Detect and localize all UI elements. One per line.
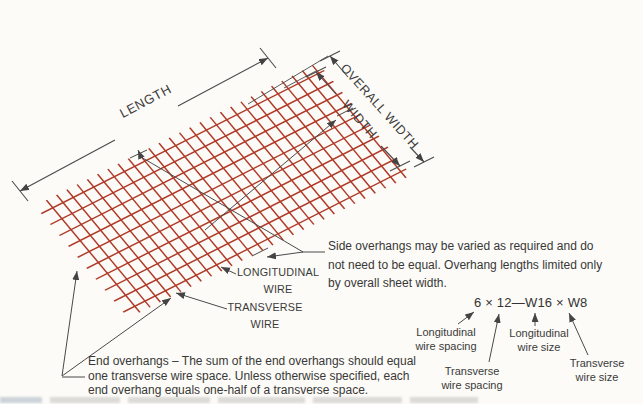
- length-dim-line-right: [178, 58, 268, 106]
- extension-line-overall-width: [248, 56, 328, 104]
- end-overhang-note-line1: End overhangs – The sum of the end overh…: [88, 354, 416, 369]
- transverse-size-label: Transverse wire size: [552, 357, 642, 384]
- transverse-wire-label-line1: TRANSVERSE: [220, 299, 310, 316]
- side-overhang-note-line1: Side overhangs may be varied as required…: [328, 237, 602, 256]
- longitudinal-spacing-label: Longitudinal wire spacing: [401, 326, 491, 353]
- end-overhang-leader-left: [62, 271, 77, 376]
- length-end-tick-left: [12, 181, 28, 201]
- longitudinal-wire-label-line2: WIRE: [233, 281, 323, 298]
- longitudinal-size-label-line2: wire size: [494, 341, 584, 355]
- designation-code: 6 × 12—W16 × W8: [474, 295, 588, 310]
- length-label: LENGTH: [117, 81, 174, 121]
- longitudinal-wire: [41, 70, 324, 213]
- side-overhang-note-line2: not need to be equal. Overhang lengths l…: [328, 256, 602, 275]
- longitudinal-wire-label: LONGITUDINAL WIRE: [233, 264, 323, 298]
- transverse-size-label-line1: Transverse: [552, 357, 642, 371]
- longitudinal-wire: [69, 103, 352, 246]
- longitudinal-wire-label-line1: LONGITUDINAL: [233, 264, 323, 281]
- longitudinal-size-label: Longitudinal wire size: [494, 327, 584, 354]
- cropped-caption-remnant: [0, 397, 478, 403]
- longitudinal-spacing-label-line1: Longitudinal: [401, 326, 491, 340]
- side-overhang-note: Side overhangs may be varied as required…: [328, 237, 602, 293]
- width-dim-line-bottom: [381, 146, 400, 166]
- side-overhang-note-line3: by overall sheet width.: [328, 274, 602, 293]
- longitudinal-size-label-line1: Longitudinal: [494, 327, 584, 341]
- transverse-spacing-label-line1: Transverse: [427, 365, 517, 379]
- figure: LENGTH OVERALL WIDTH WIDTH LONGITUDINAL …: [0, 0, 643, 404]
- side-overhang-tick-near: [252, 248, 268, 256]
- transverse-size-label-line2: wire size: [552, 371, 642, 385]
- length-end-tick-right: [260, 48, 276, 68]
- longitudinal-spacing-label-line2: wire spacing: [401, 340, 491, 354]
- longitudinal-spacing-arrow: [458, 312, 474, 324]
- overall-width-tick-bottom: [414, 157, 434, 167]
- transverse-spacing-label: Transverse wire spacing: [427, 365, 517, 392]
- transverse-spacing-label-line2: wire spacing: [427, 379, 517, 393]
- longitudinal-wire: [59, 92, 342, 235]
- transverse-wire-label-line2: WIRE: [220, 316, 310, 333]
- end-overhang-note-line2: one transverse wire space. Unless otherw…: [88, 369, 416, 384]
- end-overhang-note-line3: end overhang equals one-half of a transv…: [88, 383, 416, 398]
- end-overhang-note: End overhangs – The sum of the end overh…: [88, 354, 416, 398]
- side-overhang-leader-near: [267, 252, 303, 257]
- longitudinal-wire: [50, 81, 333, 224]
- transverse-wire-label: TRANSVERSE WIRE: [220, 299, 310, 333]
- longitudinal-wire: [78, 114, 361, 257]
